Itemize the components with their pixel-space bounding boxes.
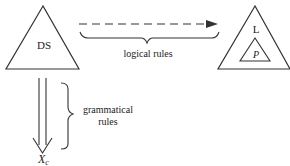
logical-rules-brace — [80, 32, 219, 43]
ds-label: DS — [37, 39, 51, 51]
rules-label: rules — [98, 116, 118, 127]
xc-subscript: c — [45, 158, 49, 166]
p-label: P — [252, 49, 259, 60]
double-arrow — [33, 78, 52, 153]
dashed-arrow — [79, 20, 218, 28]
grammatical-label: grammatical — [83, 104, 133, 115]
ds-triangle — [6, 6, 79, 69]
grammatical-rules-brace — [61, 83, 73, 149]
diagram-canvas: DS logical rules L P grammatical rules X… — [0, 0, 290, 166]
xc-label: Xc — [37, 152, 49, 166]
l-label: L — [253, 23, 260, 35]
logical-rules-label: logical rules — [123, 48, 172, 59]
